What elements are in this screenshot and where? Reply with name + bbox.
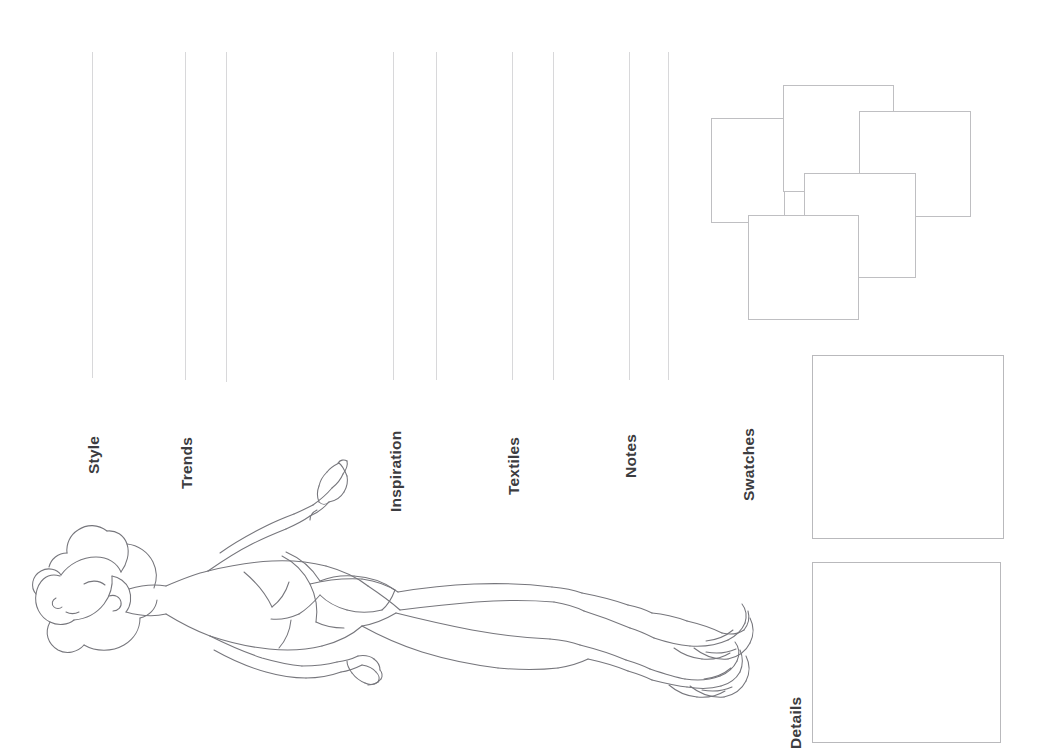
section-label-details: Details — [787, 697, 805, 749]
guide-line-divider-3 — [553, 52, 554, 380]
guide-line-divider-1 — [226, 52, 227, 382]
guide-line-trends — [185, 52, 186, 380]
moodboard-page: Style Trends Inspiration Textiles Notes … — [0, 0, 1053, 749]
swatch-box-5[interactable] — [748, 215, 859, 320]
fashion-croquis-figure — [14, 404, 804, 749]
section-label-notes: Notes — [622, 434, 640, 478]
details-panel[interactable] — [812, 562, 1001, 743]
swatch-box-1[interactable] — [711, 118, 785, 223]
section-label-inspiration: Inspiration — [387, 431, 405, 512]
guide-line-divider-2 — [436, 52, 437, 380]
guide-line-divider-4 — [668, 52, 669, 380]
guide-line-notes — [629, 52, 630, 380]
section-label-textiles: Textiles — [505, 437, 523, 495]
section-label-swatches: Swatches — [740, 428, 758, 501]
section-label-style: Style — [85, 436, 103, 474]
guide-line-style — [92, 52, 93, 378]
section-label-trends: Trends — [178, 437, 196, 489]
guide-line-inspiration — [393, 52, 394, 380]
guide-line-textiles — [512, 52, 513, 380]
swatches-panel[interactable] — [812, 355, 1004, 539]
